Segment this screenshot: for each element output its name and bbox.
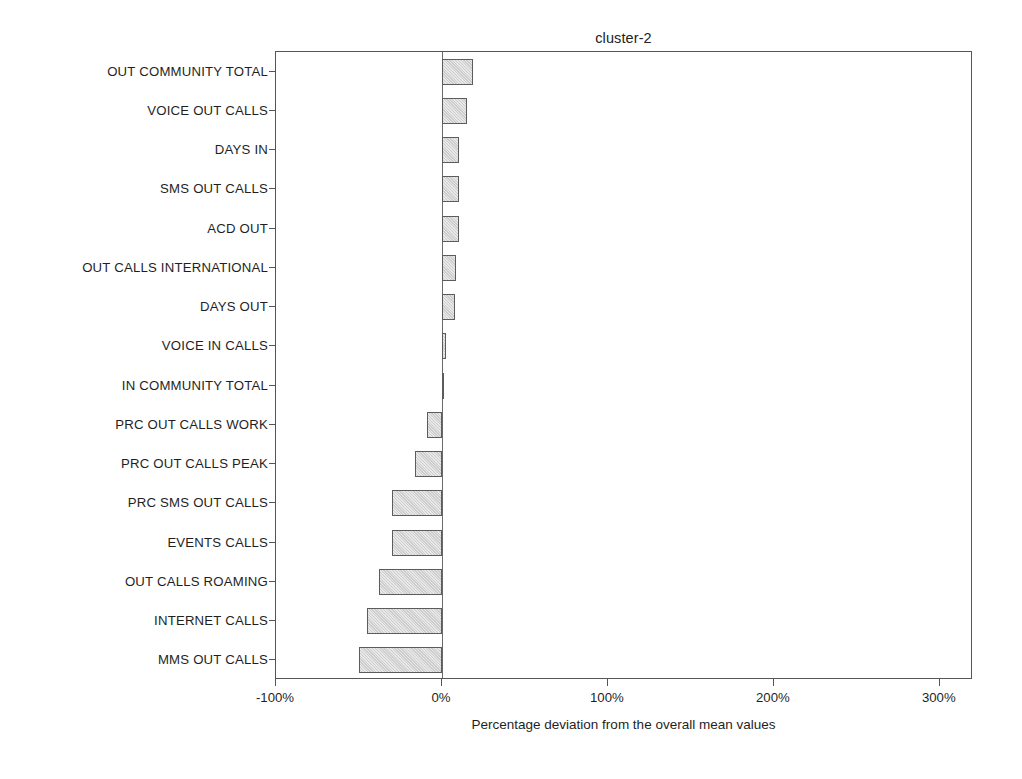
- y-axis-tick: [269, 620, 275, 621]
- bar: [442, 373, 444, 399]
- y-axis-tick-label: PRC OUT CALLS PEAK: [121, 456, 268, 471]
- x-axis-tick: [939, 679, 940, 686]
- x-axis-tick: [275, 679, 276, 686]
- bar: [442, 137, 459, 163]
- y-axis-tick: [269, 188, 275, 189]
- x-axis-tick: [607, 679, 608, 686]
- y-axis-tick: [269, 110, 275, 111]
- bar: [442, 255, 456, 281]
- y-axis-tick-label: VOICE OUT CALLS: [147, 102, 268, 117]
- y-axis-tick: [269, 149, 275, 150]
- bar: [392, 490, 442, 516]
- y-axis-tick-label: PRC SMS OUT CALLS: [128, 495, 268, 510]
- chart-title: cluster-2: [275, 30, 972, 46]
- x-axis-tick-label: 200%: [756, 690, 790, 705]
- bar: [427, 412, 442, 438]
- y-axis-tick: [269, 502, 275, 503]
- y-axis-tick-label: INTERNET CALLS: [154, 613, 268, 628]
- y-axis-tick-label: PRC OUT CALLS WORK: [115, 416, 268, 431]
- bar: [359, 647, 442, 673]
- x-axis-tick: [773, 679, 774, 686]
- bar: [415, 451, 442, 477]
- x-axis-tick-label: 300%: [922, 690, 956, 705]
- y-axis-tick-label: DAYS OUT: [200, 299, 268, 314]
- y-axis-tick: [269, 267, 275, 268]
- x-axis-title: Percentage deviation from the overall me…: [275, 717, 972, 732]
- y-axis-tick: [269, 385, 275, 386]
- bar: [442, 98, 467, 124]
- y-axis-tick-label: ACD OUT: [207, 220, 268, 235]
- bar: [442, 333, 446, 359]
- y-axis-tick-label: IN COMMUNITY TOTAL: [122, 377, 268, 392]
- x-axis-tick-label: 0%: [431, 690, 450, 705]
- y-axis-tick-label: EVENTS CALLS: [167, 534, 268, 549]
- y-axis-category-labels: OUT COMMUNITY TOTALVOICE OUT CALLSDAYS I…: [0, 51, 268, 679]
- bar: [379, 569, 442, 595]
- chart-container: cluster-2 OUT COMMUNITY TOTALVOICE OUT C…: [0, 0, 1022, 779]
- y-axis-tick: [269, 542, 275, 543]
- y-axis-tick-label: SMS OUT CALLS: [160, 181, 268, 196]
- y-axis-tick: [269, 345, 275, 346]
- x-axis-tick-label: -100%: [256, 690, 294, 705]
- bar: [392, 530, 442, 556]
- y-axis-tick: [269, 581, 275, 582]
- bar: [367, 608, 442, 634]
- bar: [442, 294, 455, 320]
- bar: [442, 59, 474, 85]
- x-axis-tick-label: 100%: [590, 690, 624, 705]
- y-axis-tick: [269, 71, 275, 72]
- bar: [442, 216, 459, 242]
- y-axis-tick: [269, 463, 275, 464]
- y-axis-tick-label: VOICE IN CALLS: [162, 338, 268, 353]
- y-axis-tick-label: MMS OUT CALLS: [158, 652, 268, 667]
- y-axis-tick: [269, 659, 275, 660]
- x-axis-tick: [441, 679, 442, 686]
- y-axis-tick: [269, 306, 275, 307]
- y-axis-tick-label: OUT COMMUNITY TOTAL: [107, 63, 268, 78]
- y-axis-tick-label: OUT CALLS INTERNATIONAL: [82, 259, 268, 274]
- y-axis-tick: [269, 424, 275, 425]
- y-axis-tick-label: OUT CALLS ROAMING: [125, 573, 268, 588]
- y-axis-tick: [269, 228, 275, 229]
- y-axis-tick-label: DAYS IN: [215, 142, 268, 157]
- bar: [442, 176, 459, 202]
- plot-area: [275, 51, 972, 679]
